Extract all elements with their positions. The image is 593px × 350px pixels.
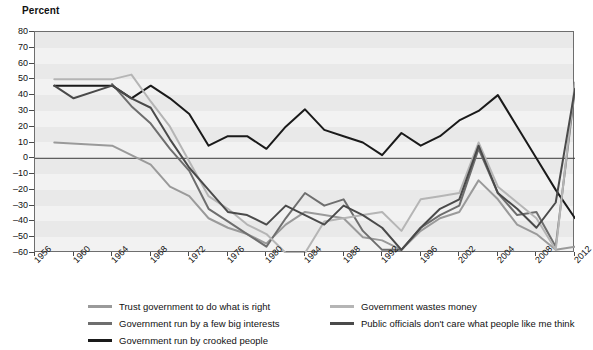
series-layer	[35, 32, 573, 251]
y-tick-label: 50	[18, 73, 28, 83]
legend-item-label: Government run by crooked people	[119, 336, 268, 346]
legend-item[interactable]: Government run by a few big interests	[88, 317, 280, 330]
chart-legend: Trust government to do what is rightGove…	[0, 300, 582, 342]
legend-item[interactable]: Government wastes money	[330, 300, 574, 313]
legend-swatch-icon	[88, 305, 112, 308]
y-tick-label: 20	[18, 121, 28, 131]
y-tick-label: –20	[13, 184, 28, 194]
x-tick-label: 2012	[572, 244, 593, 265]
y-axis-title: Percent	[22, 5, 59, 16]
y-tick-label: –60	[13, 247, 28, 257]
legend-item-label: Public officials don't care what people …	[361, 319, 574, 329]
y-tick-label: –30	[13, 200, 28, 210]
legend-item-label: Government run by a few big interests	[119, 319, 280, 329]
plot-area	[34, 31, 574, 252]
y-tick-label: 0	[23, 152, 28, 162]
legend-swatch-icon	[330, 305, 354, 308]
legend-swatch-icon	[330, 322, 354, 325]
x-axis: 1956196019641968197219761980198419881992…	[34, 252, 574, 298]
y-tick-label: –50	[13, 231, 28, 241]
y-tick-label: 40	[18, 89, 28, 99]
y-tick-label: –40	[13, 215, 28, 225]
series-svg	[35, 32, 575, 253]
legend-swatch-icon	[88, 339, 112, 342]
y-tick-label: 80	[18, 26, 28, 36]
y-tick-label: 10	[18, 137, 28, 147]
y-tick-label: –10	[13, 168, 28, 178]
legend-item-label: Government wastes money	[361, 302, 477, 312]
y-tick-label: 60	[18, 58, 28, 68]
legend-item[interactable]: Public officials don't care what people …	[330, 317, 574, 330]
series-line	[54, 86, 575, 250]
y-tick-label: 30	[18, 105, 28, 115]
legend-item[interactable]: Trust government to do what is right	[88, 300, 280, 313]
legend-item-label: Trust government to do what is right	[119, 302, 270, 312]
legend-swatch-icon	[88, 322, 112, 325]
legend-column-left: Trust government to do what is rightGove…	[88, 300, 280, 350]
legend-column-right: Government wastes moneyPublic officials …	[330, 300, 574, 334]
y-tick-label: 70	[18, 42, 28, 52]
legend-item[interactable]: Government run by crooked people	[88, 334, 280, 347]
series-line	[54, 75, 575, 253]
y-axis: –60–50–40–30–20–1001020304050607080	[0, 31, 34, 252]
